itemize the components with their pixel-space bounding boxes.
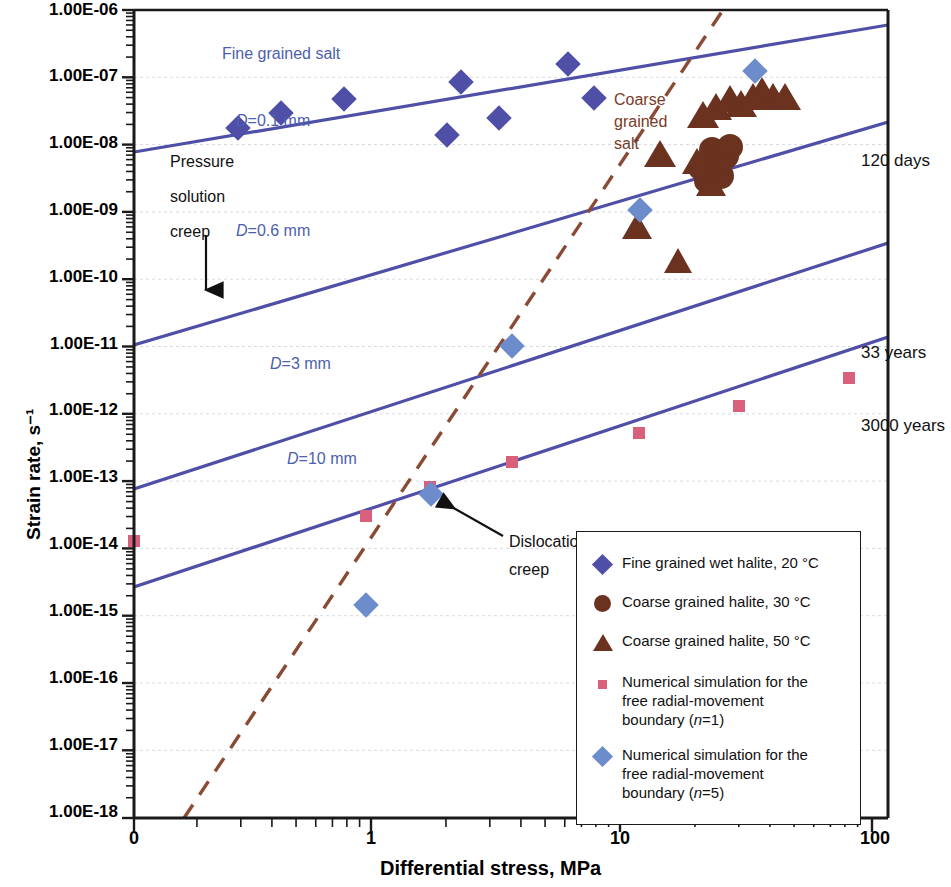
legend-label-line3b: n (694, 784, 702, 801)
d-symbol: D (270, 355, 282, 372)
legend-label-line3b: n (694, 711, 702, 728)
line-label-d-10mm: D=10 mm (287, 450, 357, 468)
legend-item-numerical-simulation-n1[interactable]: Numerical simulation for the free radial… (591, 672, 808, 730)
d-value: =0.6 mm (248, 222, 311, 239)
triangle-marker-icon (591, 632, 617, 654)
circle-marker-icon (591, 593, 617, 615)
line-label-d-0.6mm: D=0.6 mm (236, 222, 310, 240)
d-value: =3 mm (282, 355, 331, 372)
annotation-pressure-solution-line3: creep (170, 220, 210, 245)
legend-label-line1: Numerical simulation for the (622, 746, 808, 763)
line-label-d-3mm: D=3 mm (270, 355, 331, 373)
annotation-33-years: 33 years (861, 340, 926, 366)
diamond-marker-icon (591, 554, 617, 576)
legend-label-line2: free radial-movement (622, 765, 764, 782)
legend-label-line2: free radial-movement (622, 692, 764, 709)
d-symbol: D (236, 222, 248, 239)
legend-item-fine-grained-wet-halite[interactable]: Fine grained wet halite, 20 °C (591, 553, 819, 576)
d-value: =0.1 mm (248, 112, 311, 129)
line-label-d-0.1mm: D=0.1 mm (236, 112, 310, 130)
annotation-dislocation-creep-line2: creep (509, 558, 549, 583)
d-value: =10 mm (299, 450, 357, 467)
legend-label: Coarse grained halite, 50 °C (622, 631, 811, 650)
annotation-120-days: 120 days (861, 148, 930, 174)
legend-item-coarse-grained-halite-50c[interactable]: Coarse grained halite, 50 °C (591, 631, 811, 654)
legend-item-numerical-simulation-n5[interactable]: Numerical simulation for the free radial… (591, 745, 808, 803)
chart-legend: Fine grained wet halite, 20 °C Coarse gr… (576, 531, 861, 825)
annotation-pressure-solution-line1: Pressure (170, 150, 234, 175)
diamond-light-marker-icon (591, 746, 617, 768)
chart-figure: 1.00E-06 1.00E-07 1.00E-08 1.00E-09 1.00… (0, 0, 951, 887)
annotation-3000-years: 3000 years (861, 413, 945, 439)
d-symbol: D (236, 112, 248, 129)
legend-label-line3c: =5) (702, 784, 724, 801)
legend-label-line3a: boundary ( (622, 784, 694, 801)
legend-item-coarse-grained-halite-30c[interactable]: Coarse grained halite, 30 °C (591, 592, 811, 615)
legend-label: Fine grained wet halite, 20 °C (622, 553, 819, 572)
square-marker-icon (591, 673, 617, 695)
legend-label: Coarse grained halite, 30 °C (622, 592, 811, 611)
legend-label-line3c: =1) (702, 711, 724, 728)
legend-label-line3a: boundary ( (622, 711, 694, 728)
annotation-pressure-solution-line2: solution (170, 185, 225, 210)
d-symbol: D (287, 450, 299, 467)
annotation-fine-grained-salt: Fine grained salt (222, 42, 340, 67)
y-major-ticks (122, 10, 134, 818)
legend-label-line1: Numerical simulation for the (622, 673, 808, 690)
annotation-coarse-grained-salt-line3: salt (614, 132, 639, 157)
